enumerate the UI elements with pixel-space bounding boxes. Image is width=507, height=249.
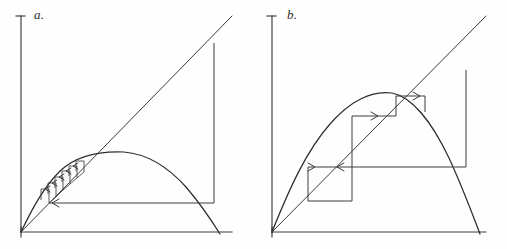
figure-container: a. b.	[0, 0, 507, 249]
panel-b-arrows	[308, 92, 420, 171]
panel-b	[267, 16, 486, 237]
panel-b-cobweb	[308, 70, 466, 201]
panel-label-b: b.	[287, 7, 297, 23]
cobweb-diagram-svg	[0, 0, 507, 249]
panel-a-cobweb	[41, 43, 214, 207]
panel-a-map-curve	[21, 152, 220, 234]
panel-label-a: a.	[34, 7, 44, 23]
panel-a-step-17	[49, 197, 56, 203]
panel-a-step-16	[56, 190, 63, 197]
panel-b-map-curve	[272, 93, 480, 234]
panel-b-identity-line	[272, 16, 486, 232]
panel-a	[16, 16, 232, 237]
panel-a-staircase-arrows	[45, 163, 78, 192]
panel-a-staircase	[41, 161, 84, 203]
